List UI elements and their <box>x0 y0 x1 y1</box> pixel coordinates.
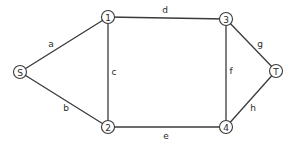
edge-a <box>20 17 108 72</box>
network-graph: abcdefgh S1234T <box>0 0 295 147</box>
node-T: T <box>270 65 283 78</box>
edges-layer <box>20 17 276 127</box>
edge-label-a: a <box>48 39 54 49</box>
node-3: 3 <box>220 13 233 26</box>
node-4: 4 <box>220 121 233 134</box>
edge-labels-layer: abcdefgh <box>48 5 263 141</box>
node-label: 3 <box>223 15 229 25</box>
edge-label-g: g <box>257 39 263 49</box>
edge-d <box>108 17 226 19</box>
edge-label-d: d <box>162 5 168 15</box>
node-label: 4 <box>223 123 229 133</box>
node-S: S <box>14 66 27 79</box>
edge-label-c: c <box>112 67 117 77</box>
node-label: T <box>272 67 279 77</box>
node-label: 2 <box>105 123 111 133</box>
edge-label-f: f <box>229 66 233 76</box>
edge-label-b: b <box>63 103 69 113</box>
edge-g <box>226 19 276 71</box>
edge-label-e: e <box>163 131 169 141</box>
node-2: 2 <box>102 121 115 134</box>
node-label: 1 <box>105 13 111 23</box>
nodes-layer: S1234T <box>14 11 283 134</box>
edge-b <box>20 72 108 127</box>
edge-label-h: h <box>250 103 256 113</box>
edge-h <box>226 71 276 127</box>
node-label: S <box>17 68 23 78</box>
node-1: 1 <box>102 11 115 24</box>
